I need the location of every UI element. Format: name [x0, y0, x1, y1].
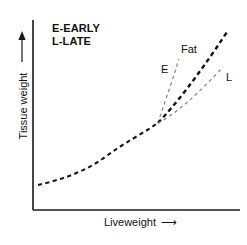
legend-key: E-EARLY L-LATE [52, 22, 100, 48]
legend-line-late: L-LATE [52, 35, 100, 48]
growth-curve-figure: E-EARLY L-LATE E Fat L Liveweight⟶ Tissu… [0, 0, 247, 245]
x-axis-arrow-icon: ⟶ [156, 216, 176, 228]
x-axis-title-text: Liveweight [104, 216, 156, 228]
y-axis-title-text: Tissue weight [17, 73, 29, 140]
y-axis-title: Tissue weight [17, 51, 29, 161]
legend-line-early: E-EARLY [52, 22, 100, 35]
curve-label-fat: Fat [181, 43, 197, 55]
plot-area [0, 0, 247, 245]
common-growth-curve [38, 123, 158, 185]
curve-label-early: E [161, 63, 168, 75]
curve-label-late: L [226, 71, 232, 83]
x-axis-title: Liveweight⟶ [104, 216, 176, 229]
